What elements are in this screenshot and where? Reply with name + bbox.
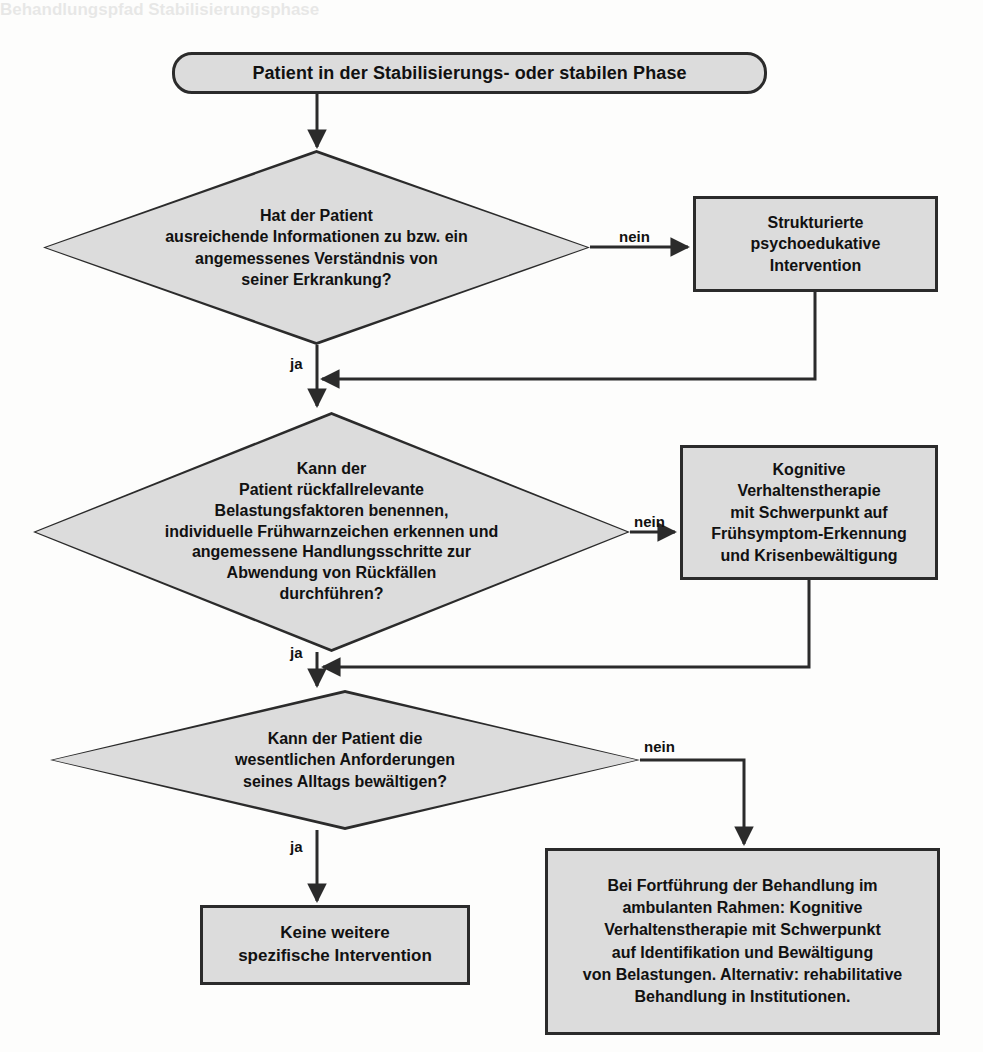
edge-label-decision2-no: nein (634, 513, 665, 530)
node-decision-relapse-factors-label: Kann der Patient rückfallrelevante Belas… (159, 459, 504, 605)
node-action-cbt-early-symptoms-label: Kognitive Verhaltenstherapie mit Schwerp… (711, 459, 907, 566)
node-outcome-outpatient-cbt[interactable]: Bei Fortführung der Behandlung im ambula… (545, 848, 940, 1035)
edge-decision3-no (640, 760, 744, 844)
flowchart-canvas: Behandlungspfad Stabilisierungsphase Pat… (0, 0, 983, 1052)
node-outcome-no-further-intervention-label: Keine weitere spezifische Intervention (238, 922, 432, 968)
node-action-cbt-early-symptoms[interactable]: Kognitive Verhaltenstherapie mit Schwerp… (680, 445, 938, 580)
node-outcome-outpatient-cbt-label: Bei Fortführung der Behandlung im ambula… (583, 875, 902, 1007)
node-decision-daily-demands-label: Kann der Patient die wesentlichen Anford… (229, 728, 461, 792)
node-action-psychoeducation-label: Strukturierte psychoedukative Interventi… (751, 212, 881, 276)
node-decision-information-label: Hat der Patient ausreichende Information… (159, 205, 474, 289)
node-outcome-no-further-intervention[interactable]: Keine weitere spezifische Intervention (200, 905, 470, 985)
page-header-fragment: Behandlungspfad Stabilisierungsphase (0, 0, 983, 26)
node-start-label: Patient in der Stabilisierungs- oder sta… (252, 63, 686, 84)
edge-label-decision3-yes: ja (290, 838, 303, 855)
edge-label-decision1-yes: ja (290, 355, 303, 372)
edge-label-decision3-no: nein (644, 738, 675, 755)
edge-label-decision2-yes: ja (290, 644, 303, 661)
node-action-psychoeducation[interactable]: Strukturierte psychoedukative Interventi… (693, 196, 938, 292)
edge-label-decision1-no: nein (619, 228, 650, 245)
node-start[interactable]: Patient in der Stabilisierungs- oder sta… (172, 52, 767, 94)
